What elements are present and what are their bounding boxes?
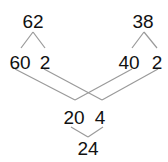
line-2-to-4 xyxy=(44,69,102,100)
combine-line-20-to-24 xyxy=(71,127,88,137)
node-38: 38 xyxy=(132,11,153,32)
node-20: 20 xyxy=(63,107,84,128)
node-2-right: 2 xyxy=(152,52,163,73)
node-60: 60 xyxy=(9,52,30,73)
diagram-svg: 62 38 60 2 40 2 20 4 24 xyxy=(0,0,168,162)
decomposition-diagram: 62 38 60 2 40 2 20 4 24 xyxy=(0,0,168,162)
split-line-62-to-60 xyxy=(21,32,33,48)
line-40-to-20 xyxy=(75,69,132,100)
node-40: 40 xyxy=(118,52,139,73)
line-2b-to-4 xyxy=(102,69,158,100)
split-line-38-to-2 xyxy=(144,32,157,48)
combine-line-4-to-24 xyxy=(88,127,103,137)
node-24: 24 xyxy=(77,138,99,159)
line-60-to-20 xyxy=(15,69,75,100)
node-4: 4 xyxy=(95,107,106,128)
node-62: 62 xyxy=(22,11,43,32)
node-2-left: 2 xyxy=(40,52,51,73)
split-line-38-to-40 xyxy=(132,32,144,48)
split-line-62-to-2 xyxy=(33,32,45,48)
